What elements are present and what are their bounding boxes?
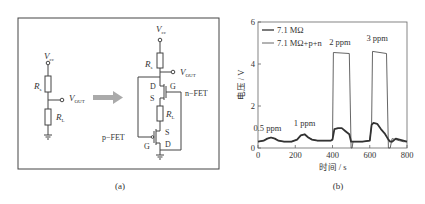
x-tick-label: 0: [256, 150, 260, 160]
concentration-annotation: 2 ppm: [329, 37, 351, 47]
concentration-annotation: 1 ppm: [294, 118, 316, 128]
right-rs-label: Rs: [144, 59, 153, 70]
nfet-label: n−FET: [185, 89, 208, 98]
panel-b-caption: (b): [333, 181, 344, 191]
y-tick-label: 2: [251, 101, 255, 111]
x-tick-label: 200: [289, 150, 302, 160]
legend-entry: 7.1 MΩ+p+n: [277, 38, 322, 48]
x-tick-label: 600: [363, 150, 376, 160]
right-vout-label: VOUT: [180, 67, 196, 78]
legend-entry: 7.1 MΩ: [277, 25, 304, 35]
y-tick-label: 6: [251, 17, 255, 27]
y-tick-label: 0: [251, 143, 255, 153]
figure: Vcc Rs RL VOUT: [0, 0, 425, 204]
x-tick-label: 400: [326, 150, 339, 160]
concentration-annotation: 0.5 ppm: [253, 123, 281, 133]
pfet-s-label: S: [165, 128, 169, 137]
voltage-time-chart: 02004006008000246时间 / s电压 / V7.1 MΩ7.1 M…: [236, 17, 413, 172]
left-vout-label: VOUT: [69, 93, 85, 104]
pfet-label: p−FET: [102, 133, 125, 142]
x-tick-label: 800: [401, 150, 414, 160]
right-vcc-label: Vcc: [156, 24, 167, 35]
concentration-annotation: 3 ppm: [366, 33, 388, 43]
y-tick-label: 4: [251, 59, 256, 69]
x-axis-label: 时间 / s: [319, 162, 347, 172]
right-fet-circuit: [138, 38, 181, 159]
pfet-g-label: G: [144, 142, 150, 151]
transform-arrow-icon: [93, 91, 123, 104]
panel-a-caption: (a): [115, 181, 125, 191]
nfet-d-label: D: [150, 82, 156, 91]
pfet-d-label: D: [165, 140, 171, 149]
nfet-g-label: G: [170, 82, 176, 91]
left-vcc-label: Vcc: [44, 51, 55, 62]
left-divider-circuit: [44, 61, 64, 139]
y-axis-label: 电压 / V: [236, 69, 246, 101]
left-rl-label: RL: [55, 112, 65, 123]
nfet-s-label: S: [150, 94, 154, 103]
left-rs-label: Rs: [33, 81, 42, 92]
right-rl-label: RL: [165, 109, 175, 120]
